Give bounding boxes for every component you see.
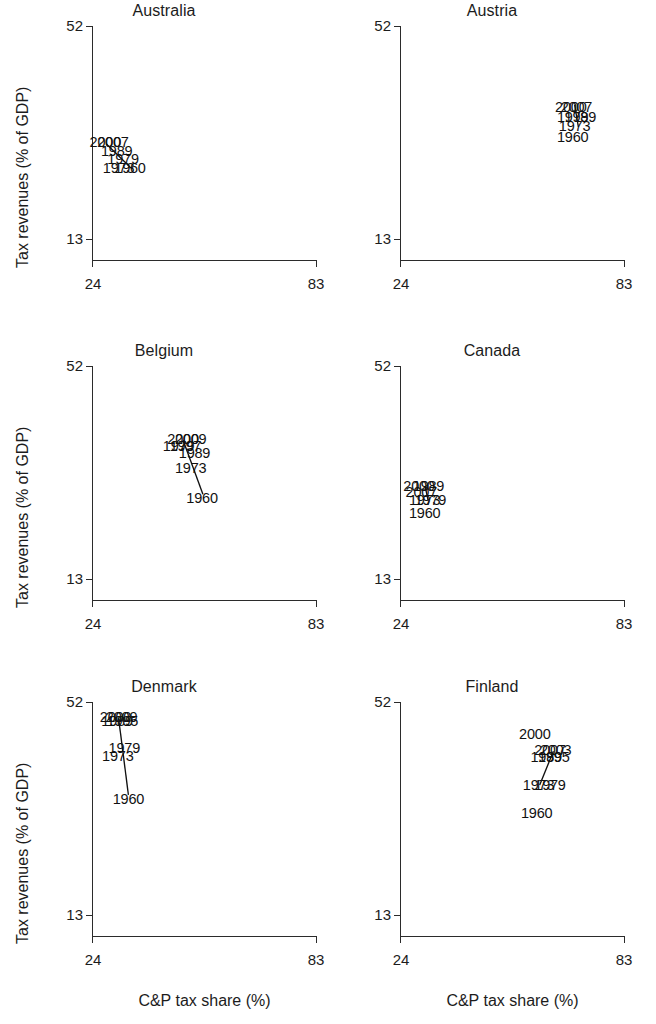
data-point-year-label: 1960 (113, 792, 144, 807)
panel-finland: Finland521324832000200720031989199519731… (328, 676, 656, 1016)
panel-title: Australia (0, 2, 328, 20)
plot-area: 52132483200020071989197919731960 (92, 26, 317, 283)
panel-australia: Australia5213248320002007198919791973196… (0, 0, 328, 340)
plot-area: 5213248320002007200319891995197319791960 (400, 702, 625, 959)
data-point-year-label: 1960 (557, 130, 588, 145)
y-axis-title: Tax revenues (% of GDP) (14, 427, 32, 608)
panel-denmark: Denmark521324832000200919891995197919731… (0, 676, 328, 1016)
data-point-year-label: 1960 (521, 806, 552, 821)
data-point-year-label: 1979 (534, 778, 565, 793)
plot-area: 521324832000200919891995197919731960 (92, 702, 317, 959)
y-tick-label: 13 (66, 906, 83, 923)
y-tick-label: 52 (66, 17, 83, 34)
data-point-year-label: 1960 (186, 490, 217, 505)
y-tick-label: 13 (66, 230, 83, 247)
y-tick-label: 52 (374, 357, 391, 374)
plot-area: 52132483200020071989197919731960 (400, 26, 625, 283)
y-tick-label: 13 (374, 906, 391, 923)
y-axis-title: Tax revenues (% of GDP) (14, 87, 32, 268)
panel-row: Denmark521324832000200919891995197919731… (0, 676, 656, 1016)
panel-canada: Canada52132483200019892007197319791960 (328, 340, 656, 680)
data-point-year-label: 1995 (107, 713, 138, 728)
figure-multipanel-scatter: Australia5213248320002007198919791973196… (0, 0, 656, 1024)
panel-title: Denmark (0, 678, 328, 696)
y-tick-label: 52 (66, 357, 83, 374)
data-point-year-label: 2000 (519, 726, 550, 741)
y-axis-title: Tax revenues (% of GDP) (14, 763, 32, 944)
data-point-year-label: 1989 (179, 446, 210, 461)
y-tick-label: 52 (66, 693, 83, 710)
y-tick-label: 52 (374, 17, 391, 34)
plot-area: 521324832000200919791997198919731960 (92, 366, 317, 623)
plot-area: 52132483200019892007197319791960 (400, 366, 625, 623)
panel-title: Belgium (0, 342, 328, 360)
series-connector-line (400, 702, 625, 959)
y-tick-label: 52 (374, 693, 391, 710)
x-axis-title: C&P tax share (%) (400, 992, 625, 1010)
data-point-year-label: 1995 (538, 750, 569, 765)
y-tick-label: 13 (374, 230, 391, 247)
y-tick-label: 13 (66, 570, 83, 587)
data-point-year-label: 1960 (409, 506, 440, 521)
series-connector-line (400, 26, 625, 283)
panel-austria: Austria52132483200020071989197919731960 (328, 0, 656, 340)
data-point-year-label: 1960 (114, 160, 145, 175)
y-tick-label: 13 (374, 570, 391, 587)
data-point-year-label: 1973 (102, 749, 133, 764)
panel-row: Australia5213248320002007198919791973196… (0, 0, 656, 340)
x-axis-title: C&P tax share (%) (92, 992, 317, 1010)
panel-row: Belgium521324832000200919791997198919731… (0, 340, 656, 680)
panel-belgium: Belgium521324832000200919791997198919731… (0, 340, 328, 680)
data-point-year-label: 1973 (175, 461, 206, 476)
